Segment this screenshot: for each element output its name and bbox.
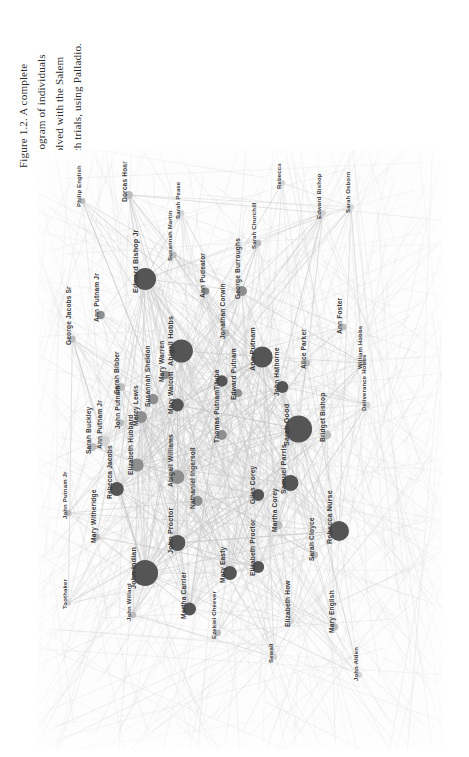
graph-node[interactable] bbox=[283, 475, 299, 491]
graph-node[interactable] bbox=[303, 360, 310, 367]
graph-node[interactable] bbox=[271, 654, 277, 660]
graph-node[interactable] bbox=[252, 347, 273, 368]
graph-node[interactable] bbox=[255, 240, 261, 246]
graph-node[interactable] bbox=[360, 360, 366, 366]
graph-node[interactable] bbox=[364, 402, 370, 408]
graph-node[interactable] bbox=[237, 286, 247, 296]
graph-node[interactable] bbox=[323, 431, 332, 440]
graph-node[interactable] bbox=[274, 521, 282, 529]
graph-node[interactable] bbox=[125, 191, 133, 199]
graph-node[interactable] bbox=[65, 510, 71, 516]
graph-node[interactable] bbox=[170, 340, 193, 363]
graph-node[interactable] bbox=[117, 383, 125, 391]
figure-caption: Figure 1.2. A complete sociogram of indi… bbox=[14, 8, 118, 168]
graph-node[interactable] bbox=[100, 436, 110, 446]
graph-node[interactable] bbox=[130, 458, 143, 471]
graph-node[interactable] bbox=[93, 534, 100, 541]
graph-node[interactable] bbox=[110, 482, 124, 496]
graph-node[interactable] bbox=[252, 561, 264, 573]
graph-node[interactable] bbox=[285, 416, 312, 443]
graph-node[interactable] bbox=[170, 470, 184, 484]
graph-node[interactable] bbox=[202, 287, 209, 294]
edge-layer bbox=[38, 150, 442, 750]
graph-node[interactable] bbox=[134, 268, 156, 290]
sociogram-graph-panel: Philip EnglishGeorge Jacobs SrAnn Putnam… bbox=[38, 150, 442, 750]
graph-node[interactable] bbox=[311, 552, 318, 559]
graph-node[interactable] bbox=[287, 618, 294, 625]
graph-node[interactable] bbox=[161, 371, 169, 379]
graph-node[interactable] bbox=[79, 198, 85, 204]
graph-node[interactable] bbox=[178, 210, 184, 216]
book-page: Figure 1.2. A complete sociogram of indi… bbox=[0, 0, 469, 757]
graph-node[interactable] bbox=[169, 535, 185, 551]
graph-node[interactable] bbox=[170, 252, 176, 258]
figure-caption-text: Figure 1.2. A complete sociogram of indi… bbox=[14, 8, 87, 168]
graph-node[interactable] bbox=[223, 330, 230, 337]
graph-node[interactable] bbox=[276, 381, 288, 393]
graph-node[interactable] bbox=[348, 204, 354, 210]
graph-node[interactable] bbox=[320, 210, 326, 216]
graph-node[interactable] bbox=[252, 489, 264, 501]
graph-node[interactable] bbox=[234, 389, 242, 397]
graph-node[interactable] bbox=[215, 630, 221, 636]
graph-node[interactable] bbox=[132, 560, 158, 586]
graph-node[interactable] bbox=[216, 375, 228, 387]
graph-node[interactable] bbox=[148, 394, 158, 404]
sociogram-svg bbox=[38, 150, 442, 750]
graph-node[interactable] bbox=[66, 600, 72, 606]
graph-node[interactable] bbox=[96, 311, 104, 319]
graph-node[interactable] bbox=[339, 323, 346, 330]
graph-node[interactable] bbox=[356, 672, 362, 678]
graph-node[interactable] bbox=[117, 420, 124, 427]
graph-node[interactable] bbox=[217, 430, 227, 440]
graph-node[interactable] bbox=[89, 443, 97, 451]
graph-node[interactable] bbox=[193, 496, 203, 506]
graph-node[interactable] bbox=[135, 411, 147, 423]
graph-node[interactable] bbox=[69, 336, 76, 343]
graph-node[interactable] bbox=[171, 399, 184, 412]
graph-node[interactable] bbox=[280, 180, 286, 186]
graph-node[interactable] bbox=[223, 566, 237, 580]
graph-node[interactable] bbox=[130, 612, 136, 618]
graph-node[interactable] bbox=[329, 521, 349, 541]
graph-node[interactable] bbox=[332, 624, 339, 631]
graph-node[interactable] bbox=[183, 603, 196, 616]
